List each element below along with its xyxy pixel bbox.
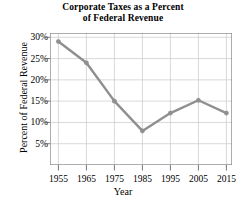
data-point-marker: [224, 111, 228, 115]
y-axis-tick-label: 15%: [8, 96, 48, 106]
data-point-marker: [84, 61, 88, 65]
chart-title-line-1: Corporate Taxes as a Percent: [0, 2, 246, 13]
y-axis-tick-label: 30%: [8, 32, 48, 42]
data-point-marker: [112, 99, 116, 103]
y-axis-tick-label: 25%: [8, 54, 48, 64]
y-axis-tick-label: 10%: [8, 117, 48, 127]
y-axis-tick-marks: [44, 33, 50, 165]
plot-frame: [50, 33, 231, 164]
line-chart-svg: [50, 33, 232, 165]
data-point-marker: [168, 111, 172, 115]
y-axis-tick-label: 20%: [8, 75, 48, 85]
chart-container: Corporate Taxes as a Percent of Federal …: [0, 0, 246, 204]
x-axis-tick-marks: [50, 165, 232, 171]
x-axis-tick-label: 2015: [206, 174, 246, 184]
data-point-marker: [56, 39, 60, 43]
data-point-marker: [140, 129, 144, 133]
chart-title-line-2: of Federal Revenue: [0, 13, 246, 24]
x-axis-label: Year: [0, 186, 246, 197]
plot-area: [50, 33, 232, 165]
y-axis-tick-label: 5%: [8, 139, 48, 149]
y-axis-tick-labels: 5%10%15%20%25%30%: [2, 33, 48, 165]
chart-title: Corporate Taxes as a Percent of Federal …: [0, 2, 246, 24]
data-point-marker: [196, 98, 200, 102]
